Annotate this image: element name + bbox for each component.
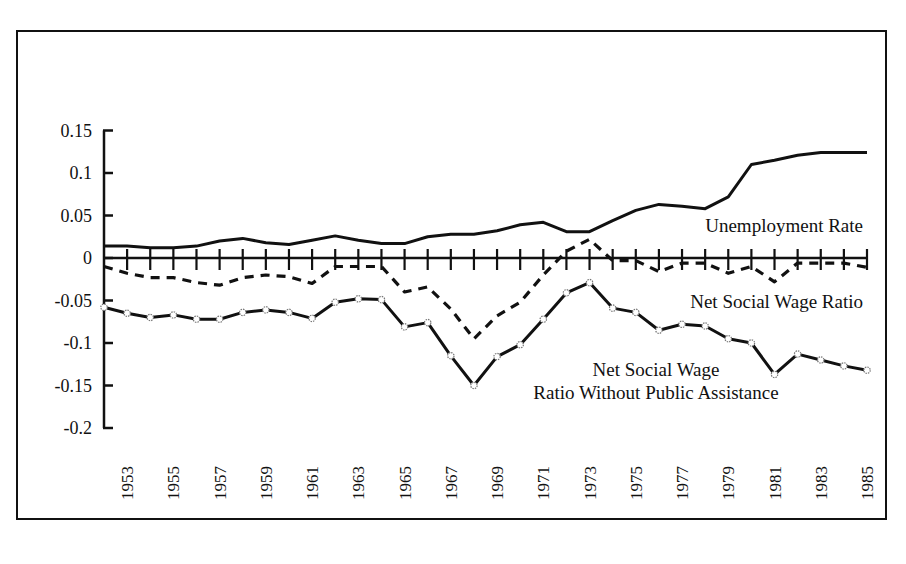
y-tick-label: -0.15 [55,376,93,396]
data-marker [378,296,384,302]
data-marker [240,309,246,315]
label-unemployment-rate: Unemployment Rate [705,215,863,236]
data-marker [771,371,777,377]
data-marker [309,315,315,321]
x-tick-label: 1953 [118,466,137,500]
data-marker [725,336,731,342]
y-tick-label: 0.1 [70,163,93,183]
data-marker [101,304,107,310]
y-tick-label: -0.05 [55,291,93,311]
data-marker [656,327,662,333]
x-tick-label: 1971 [534,466,553,500]
y-tick-label: 0.15 [61,121,93,141]
data-marker [494,353,500,359]
data-marker [586,279,592,285]
y-tick-label: 0 [83,248,92,268]
x-tick-label: 1983 [812,466,831,500]
x-tick-label: 1979 [719,466,738,500]
data-marker [355,296,361,302]
data-marker [332,299,338,305]
data-marker [540,316,546,322]
data-marker [563,290,569,296]
y-tick-label: 0.05 [61,206,93,226]
label-nswpa-line2: Ratio Without Public Assistance [533,382,778,403]
x-tick-label: 1961 [303,466,322,500]
x-tick-label: 1973 [581,466,600,500]
data-marker [633,309,639,315]
data-marker [448,353,454,359]
x-tick-label: 1969 [488,466,507,500]
data-marker [286,309,292,315]
x-tick-label: 1967 [442,466,461,501]
series-group [101,153,870,389]
x-tick-label: 1957 [211,466,230,501]
y-tick-label: -0.1 [64,333,93,353]
x-tick-label: 1965 [396,466,415,500]
data-marker [517,342,523,348]
data-marker [841,363,847,369]
data-marker [424,319,430,325]
line-chart: 0.150.10.050-0.05-0.1-0.15-0.21953195519… [0,0,906,564]
data-marker [401,324,407,330]
data-marker [124,310,130,316]
data-marker [147,314,153,320]
x-tick-label: 1975 [627,466,646,500]
data-marker [679,321,685,327]
y-tick-label: -0.2 [64,418,93,438]
data-marker [263,307,269,313]
data-marker [170,312,176,318]
label-net-social-wage-ratio: Net Social Wage Ratio [690,291,863,312]
data-marker [216,316,222,322]
x-tick-label: 1977 [673,466,692,501]
data-marker [818,357,824,363]
x-tick-label: 1985 [858,466,877,500]
data-marker [609,305,615,311]
label-nswpa-line1: Net Social Wage [593,359,720,380]
data-marker [794,351,800,357]
data-marker [471,382,477,388]
data-marker [702,323,708,329]
x-tick-label: 1955 [164,466,183,500]
x-tick-label: 1981 [766,466,785,500]
x-tick-label: 1963 [349,466,368,500]
data-marker [748,340,754,346]
data-marker [193,316,199,322]
series-net-social-wage-ratio [104,239,867,338]
data-marker [864,367,870,373]
x-tick-label: 1959 [257,466,276,500]
